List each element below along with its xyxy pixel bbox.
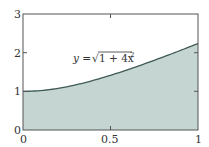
radical-sign: √ — [92, 52, 99, 64]
y-tick-label-3: 3 — [14, 8, 21, 21]
y-tick-label-2: 2 — [14, 47, 21, 60]
chart-canvas: 3 2 1 0 0 0.5 1 y = √ 1 + 4x 2 — [0, 0, 209, 147]
radical-body: 1 + 4x — [99, 52, 134, 64]
x-tick-label-1: 1 — [195, 133, 202, 146]
x-tick-label-0: 0 — [20, 133, 27, 146]
exponent: 2 — [130, 51, 134, 59]
y-tick-label-1: 1 — [14, 85, 21, 98]
curve-equation-label: y = √ 1 + 4x 2 — [72, 51, 134, 64]
y-ticks-left — [23, 53, 27, 92]
x-tick-label-05: 0.5 — [101, 133, 119, 146]
svg-text:y =: y = — [72, 52, 91, 64]
